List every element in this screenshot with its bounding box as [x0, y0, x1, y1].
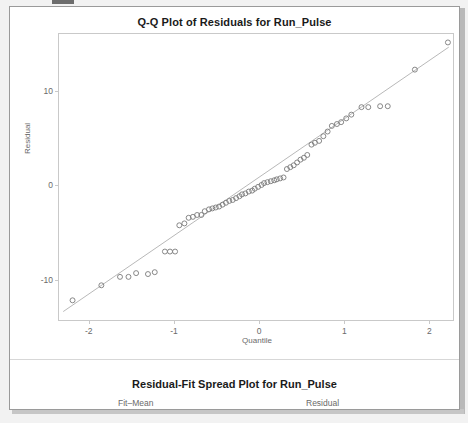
data-point — [145, 272, 150, 277]
qq-plot-panel: Q-Q Plot of Residuals for Run_Pulse Resi… — [10, 7, 459, 357]
data-point — [268, 179, 273, 184]
y-tick-mark — [55, 280, 59, 281]
data-point — [317, 138, 322, 143]
data-point — [118, 274, 123, 279]
data-point — [445, 40, 450, 45]
y-tick-mark — [55, 185, 59, 186]
residual-fit-spread-panel: Residual-Fit Spread Plot for Run_Pulse F… — [10, 360, 459, 409]
page-top-tab-mark — [52, 0, 74, 4]
data-point — [281, 175, 286, 180]
page-shadow-right — [460, 8, 465, 414]
data-point — [177, 223, 182, 228]
rfs-plot-title: Residual-Fit Spread Plot for Run_Pulse — [10, 378, 459, 390]
x-tick-mark — [429, 320, 430, 324]
data-point — [321, 134, 326, 139]
x-tick-mark — [89, 320, 90, 324]
x-tick-mark — [259, 320, 260, 324]
data-point — [265, 180, 270, 185]
data-point — [278, 176, 283, 181]
data-point — [173, 249, 178, 254]
y-axis-label: Residual — [23, 123, 32, 154]
data-point — [70, 298, 75, 303]
report-sheet: Q-Q Plot of Residuals for Run_Pulse Resi… — [9, 6, 460, 410]
qq-plot-title: Q-Q Plot of Residuals for Run_Pulse — [10, 16, 459, 28]
rfs-subtitle-residual: Residual — [306, 398, 339, 408]
data-point — [305, 152, 310, 157]
data-point — [366, 105, 371, 110]
x-tick-mark — [344, 320, 345, 324]
data-point — [295, 160, 300, 165]
x-axis-label: Quantile — [59, 336, 455, 345]
data-point — [162, 249, 167, 254]
data-point — [385, 104, 390, 109]
qq-plot-frame: Residual Quantile 100-10 -2-1012 — [58, 33, 454, 321]
scanned-page: Q-Q Plot of Residuals for Run_Pulse Resi… — [0, 0, 468, 423]
qq-plot-canvas — [59, 34, 453, 320]
y-tick-mark — [55, 91, 59, 92]
x-tick-mark — [174, 320, 175, 324]
data-point — [126, 274, 131, 279]
data-point — [168, 249, 173, 254]
reference-line — [63, 47, 449, 311]
data-point — [182, 221, 187, 226]
data-point — [134, 271, 139, 276]
data-point — [152, 270, 157, 275]
rfs-subtitle-fit-mean: Fit–Mean — [118, 398, 153, 408]
data-point — [378, 104, 383, 109]
